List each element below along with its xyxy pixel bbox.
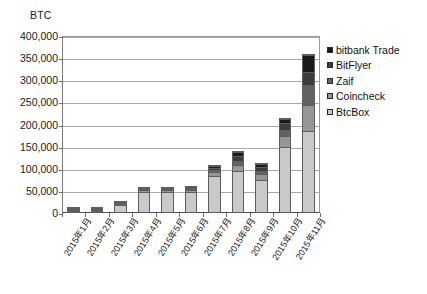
bar-segment [139,192,150,212]
bar-segment [115,205,126,212]
y-axis-tick-label: 200,000 [20,119,58,131]
bars-layer [62,36,320,213]
legend-item: Zaif [327,75,400,87]
y-axis-tick-label: 150,000 [20,141,58,153]
bar-segment [280,147,291,212]
y-axis-tick-label: 50,000 [26,185,58,197]
bar-segment [209,176,220,212]
legend-swatch-icon [327,109,333,115]
bar-stack [208,165,221,213]
bar-segment [303,131,314,212]
legend-swatch-icon [327,47,333,53]
legend-item: bitbank Trade [327,44,400,56]
bar-segment [186,192,197,212]
bar-stack [185,186,198,213]
x-axis-labels: 2015年1月2015年2月2015年3月2015年4月2015年5月2015年… [62,215,320,285]
bar-segment [68,211,79,212]
legend-item: Coincheck [327,90,400,102]
bar-stack [255,163,268,213]
bar-stack [161,187,174,213]
chart-legend: bitbank TradeBitFlyerZaifCoincheckBtcBox [327,44,400,118]
y-axis-tick-label: 300,000 [20,74,58,86]
legend-label: Zaif [336,75,354,87]
bar-stack [232,151,245,213]
bar-segment [303,105,314,131]
bar-segment [162,192,173,212]
bar-segment [303,55,314,72]
bar-stack [279,118,292,213]
stacked-bar-chart: BTC 050,000100,000150,000200,000250,0003… [0,0,427,294]
legend-label: Coincheck [336,90,385,102]
legend-item: BtcBox [327,106,400,118]
y-axis-tick-label: 100,000 [20,163,58,175]
bar-segment [233,171,244,212]
y-axis-tick-label: 0 [52,207,58,219]
legend-item: BitFlyer [327,59,400,71]
legend-label: BtcBox [336,106,369,118]
y-axis-tick-label: 350,000 [20,52,58,64]
bar-segment [303,72,314,85]
legend-swatch-icon [327,93,333,99]
y-axis-tick-label: 400,000 [20,30,58,42]
legend-swatch-icon [327,78,333,84]
legend-label: BitFlyer [336,59,372,71]
y-axis-tick-label: 250,000 [20,96,58,108]
y-axis-unit-label: BTC [30,9,52,21]
bar-segment [92,211,103,212]
legend-label: bitbank Trade [336,44,400,56]
bar-segment [280,136,291,147]
bar-stack [114,201,127,213]
chart-title-faint [96,1,326,7]
y-axis-labels: 050,000100,000150,000200,000250,000300,0… [0,36,58,213]
legend-swatch-icon [327,62,333,68]
bar-stack [138,187,151,213]
bar-segment [303,85,314,105]
bar-segment [256,180,267,212]
bar-stack [302,54,315,213]
